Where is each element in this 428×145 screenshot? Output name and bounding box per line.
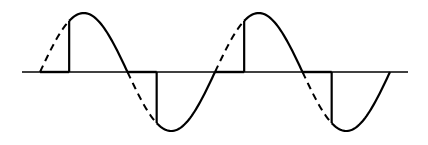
solid-curve: [244, 13, 302, 72]
solid-curve: [157, 72, 215, 131]
solid-curve: [332, 72, 390, 131]
dashed-curve: [303, 72, 332, 123]
waveform-diagram: [0, 0, 428, 145]
dashed-curve: [128, 72, 157, 123]
solid-curve: [69, 13, 127, 72]
dashed-curve: [40, 21, 69, 72]
dashed-curve: [215, 21, 244, 72]
